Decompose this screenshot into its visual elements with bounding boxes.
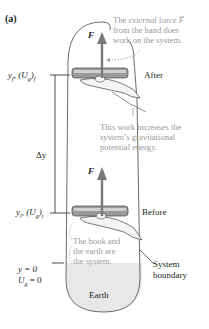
zero-U-label: Ug = 0 xyxy=(18,275,42,290)
sub: i xyxy=(42,213,44,219)
annot-text: The book and xyxy=(73,236,120,246)
sub: f xyxy=(12,76,14,82)
annot-text: the system. xyxy=(73,256,120,266)
force-label-after: F xyxy=(88,30,94,41)
force-label-before: F xyxy=(88,166,94,177)
earth-label: Earth xyxy=(89,290,109,301)
delta-y-label: Δy xyxy=(36,150,46,161)
annot-text: This work increases the xyxy=(100,122,181,132)
figure-label: (a) xyxy=(5,13,17,24)
sub: f xyxy=(34,76,36,82)
sub: g xyxy=(28,76,31,82)
external-force-pointer xyxy=(108,50,140,60)
annot-text: potential energy. xyxy=(100,142,181,152)
hand-after xyxy=(80,78,140,98)
annot-text: the earth are xyxy=(73,246,120,256)
external-force-annotation: The external force F⃗ from the hand does… xyxy=(113,15,184,45)
after-label: After xyxy=(144,70,163,81)
zero-text: = 0 xyxy=(28,275,42,285)
annot-text: from the hand does xyxy=(113,25,184,35)
system-annotation: The book and the earth are the system. xyxy=(73,236,120,266)
earth-region xyxy=(66,263,142,312)
boundary-text: System xyxy=(153,259,187,270)
force-symbol: F xyxy=(179,15,184,25)
annot-text: force xyxy=(157,15,179,25)
system-boundary-label: System boundary xyxy=(153,259,187,281)
force-symbol: F xyxy=(88,30,94,40)
final-position-label: yf, (Ug)f xyxy=(8,70,35,85)
external-emphasis: external xyxy=(129,15,157,25)
force-symbol: F xyxy=(88,166,94,176)
initial-position-label: yi, (Ug)i xyxy=(16,207,43,222)
annot-text: work on the system. xyxy=(113,35,184,45)
annot-text: The xyxy=(113,15,129,25)
sub: g xyxy=(36,213,39,219)
work-annotation: This work increases the system’s gravita… xyxy=(100,122,181,152)
boundary-pointer xyxy=(140,250,154,264)
boundary-text: boundary xyxy=(153,270,187,281)
annot-text: system’s gravitational xyxy=(100,132,181,142)
sub: i xyxy=(20,213,22,219)
before-label: Before xyxy=(142,207,167,218)
zero-y-label: y = 0 xyxy=(18,264,37,275)
